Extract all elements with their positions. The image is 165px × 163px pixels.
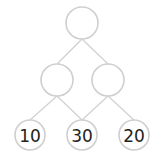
leaf-right-label: 20 [123, 126, 145, 146]
leaf-center-label: 30 [71, 126, 93, 146]
nodes: 10 30 20 [15, 7, 149, 150]
edge-mid-left-leaf-center [57, 96, 82, 120]
node-root [66, 7, 98, 39]
edge-mid-right-leaf-right [108, 96, 134, 120]
edge-root-mid-right [82, 39, 108, 64]
edge-root-mid-left [57, 39, 82, 64]
tree-diagram: 10 30 20 [0, 0, 165, 163]
edge-mid-right-leaf-center [82, 96, 108, 120]
node-mid-right [92, 64, 124, 96]
node-mid-left [41, 64, 73, 96]
edge-mid-left-leaf-left [30, 96, 57, 120]
leaf-left-label: 10 [19, 126, 41, 146]
